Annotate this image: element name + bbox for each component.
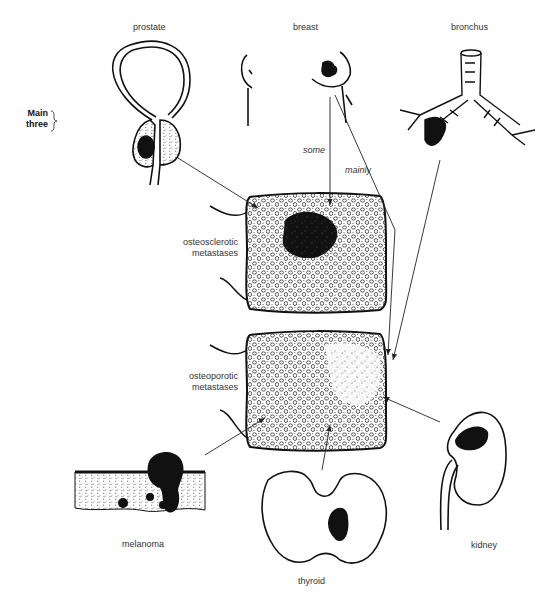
label-osteosclerotic: osteosclerotic metastases [168, 237, 238, 259]
label-osteosclerotic-line2: metastases [168, 248, 238, 259]
thyroid-illustration [262, 471, 386, 563]
kidney-illustration [441, 412, 506, 530]
prostate-illustration [113, 41, 190, 185]
label-osteoporotic: osteoporotic metastases [168, 371, 238, 393]
group-label-line1: Main [22, 108, 48, 119]
brace-icon [51, 111, 57, 131]
group-label-line2: three [22, 119, 48, 130]
melanoma-illustration [75, 452, 205, 513]
label-melanoma: melanoma [122, 539, 164, 550]
label-breast: breast [293, 22, 318, 33]
arrow-label-mainly: mainly [345, 165, 371, 176]
bronchus-illustration [400, 50, 535, 145]
label-kidney: kidney [471, 540, 497, 551]
group-label: Main three [22, 108, 48, 130]
label-thyroid: thyroid [298, 576, 325, 587]
breast-illustration [242, 52, 352, 126]
label-bronchus: bronchus [451, 22, 488, 33]
arrow-kidney [383, 397, 440, 422]
diagram-canvas [0, 0, 560, 604]
arrow-prostate-to-osteosclerotic [178, 158, 258, 208]
label-osteoporotic-line2: metastases [168, 382, 238, 393]
label-osteoporotic-line1: osteoporotic [168, 371, 238, 382]
label-osteosclerotic-line1: osteosclerotic [168, 237, 238, 248]
arrow-bronchus [393, 160, 440, 360]
label-prostate: prostate [133, 22, 166, 33]
arrow-label-some: some [303, 145, 325, 156]
